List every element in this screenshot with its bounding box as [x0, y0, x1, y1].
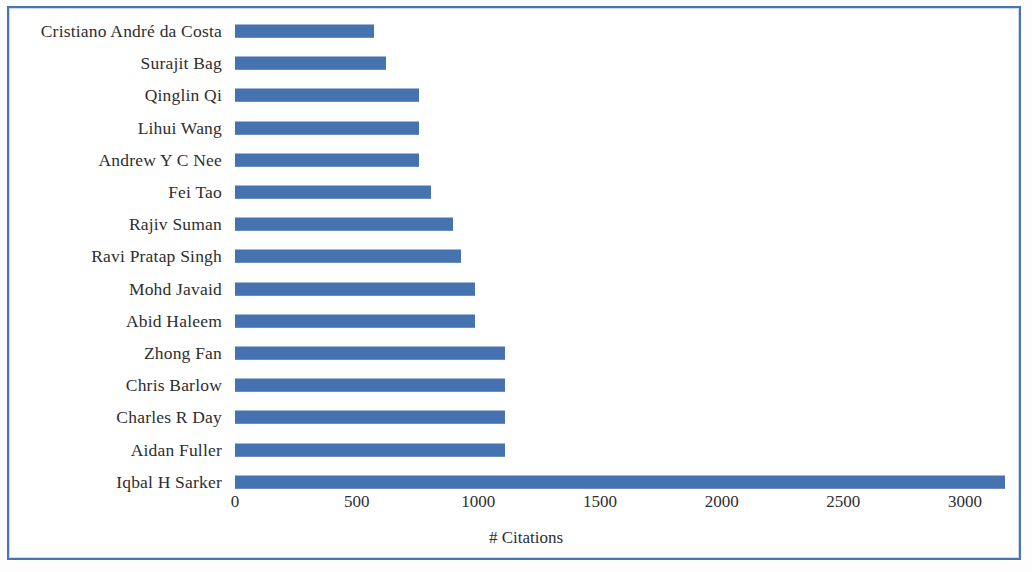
bar — [235, 89, 419, 102]
x-axis-ticks: 050010001500200025003000 — [0, 492, 1032, 522]
category-label: Chris Barlow — [126, 375, 222, 396]
category-label: Qinglin Qi — [145, 85, 222, 106]
bar-row: Abid Haleem — [0, 305, 1032, 337]
chart-figure: Cristiano André da CostaSurajit BagQingl… — [0, 0, 1032, 572]
bar-row: Surajit Bag — [0, 47, 1032, 79]
bar-row: Aidan Fuller — [0, 434, 1032, 466]
bar-row: Cristiano André da Costa — [0, 15, 1032, 47]
bar-row: Lihui Wang — [0, 112, 1032, 144]
category-label: Rajiv Suman — [129, 214, 222, 235]
bar-row: Chris Barlow — [0, 369, 1032, 401]
bar-chart-plot-area: Cristiano André da CostaSurajit BagQingl… — [0, 0, 1032, 572]
category-label: Charles R Day — [116, 407, 222, 428]
bar-row: Mohd Javaid — [0, 273, 1032, 305]
bar — [235, 218, 453, 231]
bar — [235, 379, 505, 392]
bar — [235, 25, 374, 38]
bar — [235, 186, 431, 199]
category-label: Aidan Fuller — [131, 439, 222, 460]
x-axis-title: # Citations — [0, 528, 1032, 548]
bar-row: Fei Tao — [0, 176, 1032, 208]
x-tick-label: 2000 — [705, 492, 739, 512]
x-axis-title-text: # Citations — [489, 528, 563, 548]
category-label: Iqbal H Sarker — [116, 471, 222, 492]
bar — [235, 57, 386, 70]
category-label: Lihui Wang — [138, 117, 222, 138]
category-label: Abid Haleem — [126, 310, 222, 331]
x-tick-label: 1000 — [461, 492, 495, 512]
x-tick-label: 2500 — [826, 492, 860, 512]
category-label: Andrew Y C Nee — [99, 149, 222, 170]
bar — [235, 411, 505, 424]
category-label: Zhong Fan — [144, 343, 222, 364]
bar — [235, 475, 1005, 488]
bar-row: Andrew Y C Nee — [0, 144, 1032, 176]
bar — [235, 121, 419, 134]
bar-row: Charles R Day — [0, 401, 1032, 433]
category-label: Fei Tao — [168, 182, 222, 203]
bar — [235, 282, 475, 295]
category-label: Mohd Javaid — [129, 278, 222, 299]
bar — [235, 347, 505, 360]
x-tick-label: 3000 — [948, 492, 982, 512]
x-tick-label: 500 — [344, 492, 370, 512]
bar-row: Ravi Pratap Singh — [0, 240, 1032, 272]
category-label: Cristiano André da Costa — [41, 21, 222, 42]
bar — [235, 153, 419, 166]
category-label: Surajit Bag — [141, 53, 222, 74]
category-label: Ravi Pratap Singh — [91, 246, 222, 267]
bar — [235, 443, 505, 456]
x-tick-label: 1500 — [583, 492, 617, 512]
bar — [235, 250, 461, 263]
bar — [235, 314, 475, 327]
bar-row: Qinglin Qi — [0, 79, 1032, 111]
bar-row: Rajiv Suman — [0, 208, 1032, 240]
bar-row: Zhong Fan — [0, 337, 1032, 369]
x-tick-label: 0 — [231, 492, 240, 512]
